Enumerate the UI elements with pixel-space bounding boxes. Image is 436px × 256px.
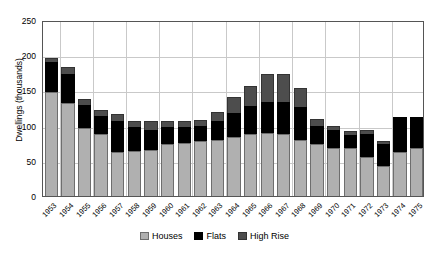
bar-column <box>111 114 124 196</box>
bar-segment-flats <box>310 126 323 144</box>
legend-item-houses: Houses <box>140 231 183 241</box>
bar-column <box>94 110 107 196</box>
bar-segment-high-rise <box>277 74 290 101</box>
bar-column <box>194 120 207 196</box>
bar-segment-houses <box>377 166 390 196</box>
bar-segment-high-rise <box>111 114 124 121</box>
bar-segment-houses <box>244 134 257 196</box>
bar-segment-houses <box>393 152 406 196</box>
bar-segment-houses <box>344 148 357 196</box>
bar-column <box>244 86 257 196</box>
legend-label-high-rise: High Rise <box>250 231 289 241</box>
bar-segment-flats <box>410 117 423 148</box>
bar-column <box>211 112 224 196</box>
bar-segment-houses <box>277 134 290 196</box>
bar-segment-houses <box>360 157 373 196</box>
bar-series-group <box>43 22 423 196</box>
bar-column <box>161 121 174 196</box>
bar-column <box>144 121 157 196</box>
bar-segment-flats <box>61 74 74 104</box>
bar-column <box>294 88 307 196</box>
legend-label-flats: Flats <box>206 231 226 241</box>
bar-segment-high-rise <box>144 121 157 129</box>
legend-label-houses: Houses <box>152 231 183 241</box>
legend-swatch-houses-icon <box>140 232 149 240</box>
bar-segment-houses <box>128 151 141 196</box>
bar-segment-flats <box>360 134 373 157</box>
legend-swatch-high-rise-icon <box>238 232 247 240</box>
bar-segment-flats <box>111 121 124 152</box>
bar-column <box>227 97 240 196</box>
bar-column <box>393 117 406 196</box>
bar-segment-houses <box>211 140 224 196</box>
bar-segment-high-rise <box>294 88 307 108</box>
bar-segment-flats <box>244 106 257 134</box>
bar-segment-houses <box>61 103 74 196</box>
bar-segment-flats <box>327 130 340 148</box>
bar-column <box>360 130 373 196</box>
stacked-bar-chart: Dwellings (thousands) 050100150200250 19… <box>0 0 436 256</box>
bar-segment-houses <box>45 92 58 196</box>
bar-segment-flats <box>161 127 174 144</box>
bar-column <box>327 126 340 196</box>
y-tick-label: 50 <box>0 157 36 167</box>
bar-segment-houses <box>261 133 274 196</box>
bar-segment-houses <box>161 144 174 196</box>
bar-segment-flats <box>393 117 406 152</box>
bar-segment-high-rise <box>310 119 323 126</box>
bar-segment-flats <box>78 105 91 129</box>
y-tick-label: 250 <box>0 16 36 26</box>
bar-segment-flats <box>377 144 390 167</box>
bar-segment-houses <box>111 152 124 196</box>
bar-segment-high-rise <box>227 97 240 112</box>
legend-swatch-flats-icon <box>194 232 203 240</box>
bar-segment-flats <box>94 116 107 134</box>
bar-segment-high-rise <box>244 86 257 106</box>
bar-segment-flats <box>178 127 191 142</box>
bar-segment-flats <box>45 62 58 92</box>
bar-segment-flats <box>211 121 224 139</box>
bar-segment-houses <box>410 148 423 196</box>
bar-column <box>261 74 274 196</box>
bar-segment-houses <box>194 141 207 196</box>
chart-legend: Houses Flats High Rise <box>0 231 436 241</box>
bar-column <box>128 121 141 196</box>
bar-segment-high-rise <box>211 112 224 122</box>
bar-segment-flats <box>277 102 290 134</box>
bar-column <box>45 58 58 196</box>
bar-segment-houses <box>78 128 91 196</box>
bar-segment-high-rise <box>261 74 274 101</box>
bar-segment-flats <box>227 113 240 137</box>
bar-segment-flats <box>261 102 274 133</box>
plot-area <box>42 21 424 197</box>
bar-segment-flats <box>194 126 207 141</box>
bar-segment-houses <box>327 148 340 196</box>
bar-column <box>310 119 323 196</box>
bar-column <box>78 99 91 196</box>
y-tick-label: 100 <box>0 122 36 132</box>
legend-item-flats: Flats <box>194 231 226 241</box>
bar-segment-houses <box>144 150 157 196</box>
bar-segment-flats <box>128 127 141 151</box>
bar-column <box>344 131 357 196</box>
bar-segment-houses <box>294 140 307 196</box>
bar-segment-houses <box>94 134 107 196</box>
bar-column <box>61 67 74 196</box>
bar-segment-flats <box>344 135 357 148</box>
bar-column <box>277 74 290 196</box>
bar-segment-houses <box>227 137 240 196</box>
y-tick-label: 0 <box>0 192 36 202</box>
bar-segment-flats <box>294 107 307 139</box>
bar-column <box>410 117 423 196</box>
bar-segment-houses <box>310 144 323 196</box>
y-tick-label: 150 <box>0 86 36 96</box>
legend-item-high-rise: High Rise <box>238 231 289 241</box>
bar-segment-houses <box>178 143 191 197</box>
bar-segment-flats <box>144 130 157 150</box>
bar-column <box>178 121 191 196</box>
bar-column <box>377 141 390 196</box>
y-tick-label: 200 <box>0 51 36 61</box>
